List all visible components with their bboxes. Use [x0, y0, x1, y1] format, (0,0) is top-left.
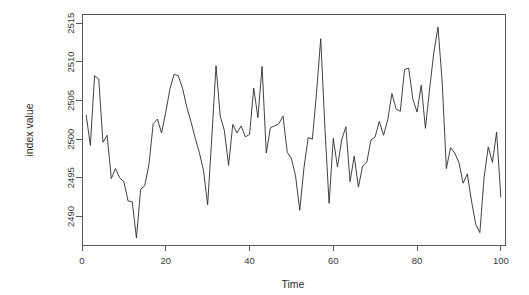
y-tick-label: 2500 [65, 129, 76, 150]
plot-frame [82, 14, 505, 245]
x-tick-label: 40 [244, 255, 255, 266]
x-tick-label: 60 [328, 255, 339, 266]
y-axis-ticks [76, 23, 82, 216]
y-tick-label: 2510 [65, 51, 76, 72]
x-axis-title: Time [282, 278, 305, 290]
series-polyline [86, 27, 501, 238]
chart-figure: 020406080100 249024952500250525102515 Ti… [0, 0, 529, 295]
y-axis-title: index value [23, 103, 35, 156]
data-series-index-value [86, 27, 501, 238]
line-chart-plot: 020406080100 249024952500250525102515 Ti… [0, 0, 529, 295]
y-axis-tick-labels: 249024952500250525102515 [65, 13, 76, 227]
x-tick-label: 100 [493, 255, 509, 266]
y-tick-label: 2515 [65, 13, 76, 34]
y-tick-label: 2490 [65, 206, 76, 227]
x-axis-ticks [82, 245, 501, 251]
x-tick-label: 0 [79, 255, 84, 266]
y-tick-label: 2495 [65, 167, 76, 188]
x-tick-label: 20 [160, 255, 171, 266]
x-tick-label: 80 [412, 255, 423, 266]
x-axis-tick-labels: 020406080100 [79, 255, 508, 266]
y-tick-label: 2505 [65, 90, 76, 111]
